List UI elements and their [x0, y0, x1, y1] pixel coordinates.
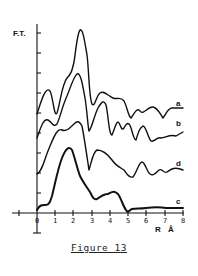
- curve-label-c: c: [176, 197, 181, 206]
- svg-text:6: 6: [144, 217, 148, 225]
- svg-text:7: 7: [163, 217, 167, 225]
- figure-caption-text: Figure 13: [71, 242, 127, 253]
- figure-13-chart: F.T. 0 1 2 3 4 5 6 7 8 R Å a b d c: [0, 0, 198, 276]
- curve-label-b: b: [176, 119, 181, 128]
- curve-a: [37, 30, 183, 118]
- y-axis-label: F.T.: [13, 29, 25, 38]
- svg-text:3: 3: [90, 217, 94, 225]
- curve-label-d: d: [176, 159, 181, 168]
- x-tick-labels: 0 1 2 3 4 5 6 7 8: [35, 217, 185, 225]
- svg-text:1: 1: [53, 217, 57, 225]
- svg-text:8: 8: [181, 217, 185, 225]
- curve-label-a: a: [176, 99, 181, 108]
- x-axis-label: R: [155, 225, 161, 234]
- svg-text:4: 4: [108, 217, 112, 225]
- figure-caption: Figure 13: [0, 242, 198, 253]
- svg-text:0: 0: [35, 217, 39, 225]
- svg-text:5: 5: [126, 217, 130, 225]
- x-axis-unit: Å: [168, 225, 174, 234]
- svg-text:2: 2: [71, 217, 75, 225]
